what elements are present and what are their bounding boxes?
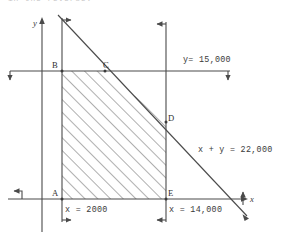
constraint-y-15000: y= 15,000 — [10, 55, 231, 80]
feasible-region — [62, 71, 166, 199]
y-axis-arrowhead — [39, 17, 45, 24]
y-15000-label: y= 15,000 — [183, 55, 231, 65]
x-plus-y-22000-label: x + y = 22,000 — [198, 145, 273, 155]
x-2000-label: x = 2000 — [65, 205, 108, 215]
x-axis-arrowhead — [241, 196, 248, 202]
vertex-label-b: B — [52, 60, 58, 70]
x-axis-left-direction-arrow-group — [14, 191, 22, 199]
cropped-heading-text: in the reverse. — [8, 0, 92, 3]
vertex-point-a — [61, 198, 64, 201]
vertex-point-b — [61, 70, 64, 73]
x-14000-label: x = 14,000 — [169, 205, 222, 215]
y-axis-label: y — [32, 18, 37, 28]
x-axis-label: x — [249, 194, 254, 204]
figure-root: in the reverse. — [0, 0, 281, 240]
vertex-label-e: E — [168, 188, 173, 198]
linear-programming-figure: y= 15,000 x = 2000 x = 14,000 — [0, 0, 281, 240]
vertex-label-c: C — [103, 60, 109, 70]
vertex-label-d: D — [168, 113, 174, 123]
x-axis-left-direction-arrow — [14, 191, 22, 199]
feasible-region-hatch — [62, 71, 166, 199]
vertex-label-a: A — [52, 188, 59, 198]
